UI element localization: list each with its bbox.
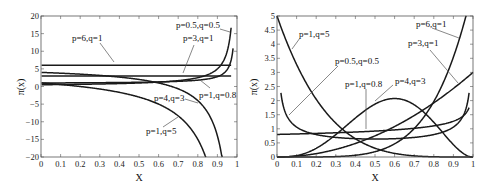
right-label-p3q1: p=3,q=1 xyxy=(408,38,438,48)
right-label-p6q1: p=6,q=1 xyxy=(416,19,446,29)
y-tick-label: 4.5 xyxy=(264,25,275,35)
x-tick-label: 0 xyxy=(275,159,279,169)
right-label-p1q5: p=1,q=5 xyxy=(299,29,330,39)
y-tick-label: 0.5 xyxy=(264,138,275,148)
x-tick-label: 0.3 xyxy=(330,159,341,169)
y-tick-label: −5 xyxy=(30,99,39,109)
x-tick-label: 1 xyxy=(235,159,239,169)
left-arrow-p05q05 xyxy=(220,29,230,32)
x-tick-label: 0 xyxy=(39,159,43,169)
y-tick-label: 2.5 xyxy=(264,82,275,92)
right-arrow-p1q5 xyxy=(292,38,300,49)
right-y-label: π(x) xyxy=(248,79,260,96)
x-tick-label: 0.6 xyxy=(389,159,400,169)
right-arrow-p05q05 xyxy=(289,66,338,115)
x-tick-label: 0.9 xyxy=(212,159,223,169)
x-tick-label: 0.1 xyxy=(291,159,302,169)
y-tick-label: 20 xyxy=(31,11,40,21)
y-tick-label: 5 xyxy=(271,11,275,21)
right-chart: 54.543.532.521.510.50 00.10.20.30.40.50.… xyxy=(248,11,475,183)
right-x-label: X xyxy=(371,172,379,183)
x-tick-label: 0.8 xyxy=(192,159,203,169)
left-label-p1q5: p=1,q=5 xyxy=(146,126,177,136)
x-tick-label: 0.3 xyxy=(94,159,105,169)
x-tick-label: 0.2 xyxy=(75,159,86,169)
x-tick-label: 0.5 xyxy=(134,159,145,169)
y-tick-label: −20 xyxy=(26,152,39,162)
x-tick-label: 0.8 xyxy=(428,159,439,169)
left-arrow-p3q1 xyxy=(183,45,194,73)
y-tick-label: 0 xyxy=(35,82,39,92)
left-label-p1q08: p=1,q=0.8 xyxy=(199,90,237,100)
x-tick-label: 0.1 xyxy=(55,159,66,169)
y-tick-label: 2 xyxy=(271,96,275,106)
left-x-label: X xyxy=(135,172,143,183)
y-tick-label: 15 xyxy=(31,29,40,39)
left-arrow-p1q08 xyxy=(200,80,210,88)
curve-p-0-5-q-0-5 xyxy=(281,93,469,139)
left-label-p4q3: p=4,q=3 xyxy=(154,93,185,103)
figure: 20151050−5−10−15−20 00.10.20.30.40.50.60… xyxy=(0,0,488,188)
x-tick-label: 0.5 xyxy=(370,159,381,169)
x-tick-label: 0.6 xyxy=(153,159,164,169)
x-tick-label: 1 xyxy=(471,159,475,169)
y-tick-label: −15 xyxy=(26,134,39,144)
left-label-p6q1: p=6,q=1 xyxy=(72,33,102,43)
right-arrow-p6q1 xyxy=(432,28,459,38)
x-tick-label: 0.4 xyxy=(114,159,125,169)
left-chart: 20151050−5−10−15−20 00.10.20.30.40.50.60… xyxy=(15,11,239,183)
y-tick-label: 10 xyxy=(31,46,40,56)
right-label-p1q08: p=1,q=0.8 xyxy=(345,79,383,89)
y-tick-label: −10 xyxy=(26,117,39,127)
left-label-p05q05: p=0.5,q=0.5 xyxy=(176,20,220,30)
left-arrow-p6q1 xyxy=(100,43,114,62)
y-tick-label: 3.5 xyxy=(264,53,275,63)
y-tick-label: 4 xyxy=(271,39,276,49)
x-tick-label: 0.2 xyxy=(311,159,322,169)
right-label-p4q3: p=4,q=3 xyxy=(395,76,426,86)
x-tick-label: 0.7 xyxy=(409,159,420,169)
left-label-p3q1: p=3,q=1 xyxy=(183,33,213,43)
x-tick-label: 0.7 xyxy=(173,159,184,169)
y-tick-label: 5 xyxy=(35,64,39,74)
x-tick-label: 0.9 xyxy=(448,159,459,169)
y-tick-label: 1.5 xyxy=(264,110,275,120)
y-tick-label: 1 xyxy=(271,124,275,134)
right-label-p05q05: p=0.5,q=0.5 xyxy=(335,56,379,66)
x-tick-label: 0.4 xyxy=(350,159,361,169)
y-tick-label: 3 xyxy=(271,67,275,77)
left-y-label: π(x) xyxy=(15,79,27,96)
